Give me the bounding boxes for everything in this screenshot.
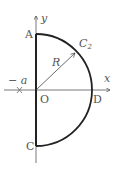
x-axis-label: x [104, 72, 111, 85]
point-c-label: C [26, 140, 34, 153]
curve-subscript: 2 [86, 43, 92, 51]
radius-label: R [51, 56, 60, 69]
semicircle-diagram: y x A C D O − a R C2 [0, 0, 122, 169]
y-axis-label: y [40, 12, 48, 25]
origin-label: O [40, 93, 49, 106]
point-a-label: A [24, 28, 34, 41]
neg-a-label: − a [8, 74, 27, 87]
curve-c2-label: C2 [79, 37, 92, 51]
point-d-label: D [93, 93, 102, 106]
